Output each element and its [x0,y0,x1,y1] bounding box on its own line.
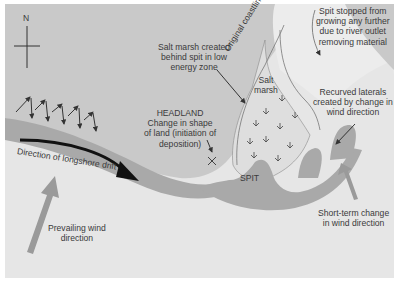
recurved-laterals-label: Recurved laterals created by change in w… [313,87,393,118]
salt-marsh-created-label: Salt marsh created behind spit in low en… [158,42,230,73]
spit-stopped-label: Spit stopped from growing any further du… [316,6,390,47]
spit-formation-diagram: N Salt marsh created behind spit in low … [0,0,397,283]
headland-label: HEADLAND Change in shape of land (initia… [144,108,216,149]
compass-north-label: N [23,13,29,23]
short-term-change-label: Short-term change in wind direction [318,208,389,228]
salt-marsh-label: Salt marsh [254,75,278,95]
prevailing-wind-label: Prevailing wind direction [48,223,106,243]
spit-label: SPIT [240,173,259,183]
